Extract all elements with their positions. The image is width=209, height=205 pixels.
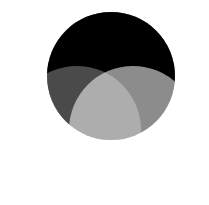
venn-diagram-figure (0, 0, 209, 205)
venn-circle-set-c (69, 66, 197, 194)
venn-canvas (0, 0, 209, 205)
